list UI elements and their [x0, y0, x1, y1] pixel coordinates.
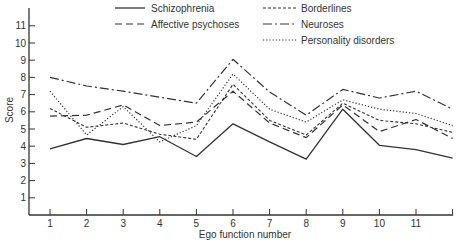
legend-label: Personality disorders — [301, 35, 394, 46]
legend-label: Schizophrenia — [151, 3, 215, 14]
legend-item: Affective psychoses — [115, 19, 239, 30]
y-tick-label: 6 — [20, 106, 26, 117]
y-tick-label: 1 — [20, 192, 26, 203]
x-tick-label: 6 — [230, 218, 236, 229]
series-line-borderlines — [50, 84, 453, 139]
series-group — [50, 59, 453, 159]
y-tick-label: 10 — [15, 38, 27, 49]
y-tick-label: 5 — [20, 124, 26, 135]
x-tick-label: 5 — [194, 218, 200, 229]
legend-label: Neuroses — [301, 19, 344, 30]
x-tick-label: 11 — [411, 218, 422, 229]
x-tick-label: 3 — [120, 218, 126, 229]
legend-label: Affective psychoses — [151, 19, 239, 30]
legend-item: Personality disorders — [263, 35, 394, 46]
x-tick-label: 9 — [340, 218, 346, 229]
y-tick-label: 9 — [20, 55, 26, 66]
y-tick-label: 3 — [20, 158, 26, 169]
x-tick-label: 10 — [374, 218, 386, 229]
x-tick-label: 7 — [267, 218, 273, 229]
y-tick-label: 4 — [20, 141, 26, 152]
series-line-affective-psychoses — [50, 91, 453, 138]
line-chart: 12345678910111234567891011 Schizophrenia… — [0, 0, 460, 245]
y-tick-label: 8 — [20, 72, 26, 83]
x-tick-label: 2 — [84, 218, 90, 229]
legend-item: Schizophrenia — [115, 3, 215, 14]
legend-item: Neuroses — [263, 19, 344, 30]
legend: SchizophreniaAffective psychosesBorderli… — [115, 3, 394, 46]
x-tick-label: 1 — [47, 218, 53, 229]
x-axis-title: Ego function number — [199, 229, 292, 240]
y-tick-label: 2 — [20, 175, 26, 186]
y-tick-label: 11 — [16, 20, 27, 31]
x-tick-label: 4 — [157, 218, 163, 229]
legend-item: Borderlines — [263, 3, 352, 14]
legend-label: Borderlines — [301, 3, 352, 14]
y-tick-label: 7 — [20, 89, 26, 100]
x-tick-label: 8 — [303, 218, 309, 229]
y-axis-title: Score — [4, 97, 15, 124]
